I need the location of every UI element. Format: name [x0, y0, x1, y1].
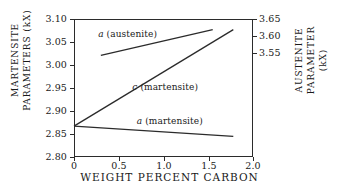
y-axis-title-right: AUSTENITE PARAMETER (kX) — [293, 0, 329, 130]
ytick-left-label-3: 2.95 — [45, 83, 67, 93]
y-axis-title-right-line-1: AUSTENITE — [293, 0, 305, 130]
xtick-label-3: 1.5 — [201, 161, 216, 171]
ytick-right-0 — [253, 19, 257, 20]
ytick-left-label-1: 3.05 — [45, 37, 67, 47]
y-axis-title-right-line-3: (kX) — [317, 0, 329, 130]
xtick-label-2: 1.0 — [156, 161, 171, 171]
xtick-label-4: 2.0 — [245, 161, 260, 171]
ytick-right-2 — [253, 53, 257, 54]
series-annotation-a-austenite: a (austenite) — [98, 29, 157, 39]
ytick-left-label-4: 2.90 — [45, 106, 67, 116]
ytick-left-label-0: 3.10 — [45, 14, 67, 24]
y-axis-title-left-line-1: MARTENSITE — [9, 0, 21, 130]
xtick-label-0: 0 — [71, 161, 77, 171]
series-annotation-a-martensite: a (martensite) — [137, 116, 203, 126]
y-axis-title-left: MARTENSITE PARAMETERS (kX) — [9, 0, 33, 130]
y-axis-title-right-line-2: PARAMETER — [305, 0, 317, 130]
series-phase-a-martensite: (martensite) — [142, 116, 203, 126]
x-axis-title: WEIGHT PERCENT CARBON — [0, 172, 339, 183]
ytick-left-5 — [70, 134, 74, 135]
ytick-left-label-2: 3.00 — [45, 60, 67, 70]
ytick-right-label-1: 3.60 — [259, 31, 281, 41]
ytick-left-2 — [70, 65, 74, 66]
series-phase-c-martensite: (martensite) — [137, 82, 198, 92]
figure-canvas: 3.10 3.05 3.00 2.95 2.90 2.85 2.80 3.65 … — [0, 0, 339, 189]
ytick-right-label-2: 3.55 — [259, 48, 281, 58]
ytick-left-label-6: 2.80 — [45, 152, 67, 162]
xtick-label-1: 0.5 — [111, 161, 126, 171]
ytick-left-4 — [70, 111, 74, 112]
ytick-left-1 — [70, 42, 74, 43]
series-phase-a-austenite: (austenite) — [104, 29, 157, 39]
ytick-right-1 — [253, 36, 257, 37]
series-annotation-c-martensite: c (martensite) — [132, 82, 198, 92]
ytick-left-0 — [70, 19, 74, 20]
ytick-left-label-5: 2.85 — [45, 129, 67, 139]
ytick-left-3 — [70, 88, 74, 89]
ytick-right-label-0: 3.65 — [259, 14, 281, 24]
y-axis-title-left-line-2: PARAMETERS (kX) — [21, 0, 33, 130]
